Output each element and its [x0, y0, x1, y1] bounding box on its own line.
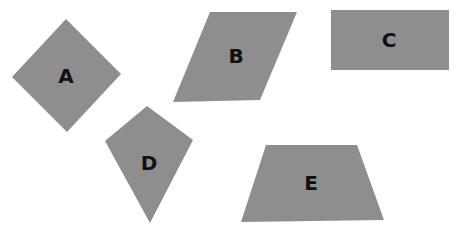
shapes-diagram: A B C D E: [0, 0, 458, 231]
shape-e-label: E: [304, 171, 318, 195]
shape-e: E: [241, 145, 384, 222]
shape-d: D: [105, 106, 193, 223]
shape-b: B: [173, 12, 297, 102]
shape-d-label: D: [141, 151, 158, 175]
shape-c-label: C: [382, 28, 397, 52]
shape-b-label: B: [228, 44, 243, 68]
shape-a-label: A: [58, 64, 74, 88]
shape-c: C: [331, 10, 449, 70]
shape-a: A: [12, 19, 121, 132]
